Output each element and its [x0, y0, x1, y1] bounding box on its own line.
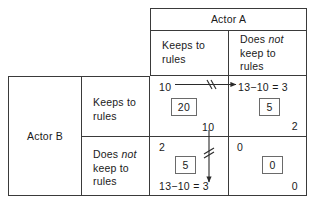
actor-a-header: Actor A: [150, 8, 307, 31]
column-header-divider: [228, 31, 229, 76]
cell-notkeeps-keeps: 2 5 13−10 = 3: [150, 136, 228, 196]
col1-line2: rules: [162, 53, 186, 65]
actor-b-header: Actor B: [8, 76, 82, 196]
cell-keeps-notkeeps-row-payoff: 13−10 = 3: [238, 81, 288, 93]
cell-keeps-keeps-row-payoff: 10: [159, 81, 171, 93]
cell-keeps-notkeeps-boxed-value: 5: [259, 98, 280, 116]
row2-line3: rules: [93, 175, 117, 187]
row2-line2: keep to: [93, 162, 129, 174]
actor-a-label: Actor A: [211, 13, 246, 26]
row-strategy-does-not-keep-to-rules: Does not keep to rules: [93, 148, 149, 189]
cell-notkeeps-keeps-col-payoff: 13−10 = 3: [159, 180, 209, 192]
cell-notkeeps-notkeeps: 0 0 0: [228, 136, 307, 196]
row2-line1-pre: Does: [93, 148, 121, 160]
vertical-arrow-label: 10: [202, 121, 214, 133]
cell-keeps-keeps-boxed-value: 20: [171, 98, 197, 116]
column-strategy-keeps-to-rules: Keeps to rules: [162, 39, 222, 66]
row-strategy-keeps-to-rules: Keeps to rules: [93, 96, 149, 123]
row1-line2: rules: [93, 110, 117, 122]
cell-keeps-notkeeps-col-payoff: 2: [292, 120, 298, 132]
cell-keeps-keeps: 10 20: [150, 76, 228, 136]
col2-line2: keep to: [240, 47, 276, 59]
cell-notkeeps-keeps-boxed-value: 5: [175, 156, 196, 174]
cell-notkeeps-notkeeps-col-payoff: 0: [292, 180, 298, 192]
row2-line1-italic: not: [121, 148, 136, 160]
cell-notkeeps-keeps-row-payoff: 2: [159, 141, 165, 153]
payoff-matrix-diagram: Actor A Keeps to rules Does not keep to …: [0, 0, 315, 204]
row-header-divider: [82, 136, 150, 137]
cell-notkeeps-notkeeps-boxed-value: 0: [262, 156, 283, 174]
col2-line3: rules: [240, 60, 264, 72]
col2-line1-pre: Does: [240, 33, 268, 45]
actor-b-label: Actor B: [27, 130, 63, 143]
cell-notkeeps-notkeeps-row-payoff: 0: [237, 141, 243, 153]
cell-keeps-notkeeps: 13−10 = 3 5 2: [228, 76, 307, 136]
col1-line1: Keeps to: [162, 39, 205, 51]
row1-line1: Keeps to: [93, 96, 136, 108]
col2-line1-italic: not: [268, 33, 283, 45]
column-strategy-does-not-keep-to-rules: Does not keep to rules: [240, 33, 302, 74]
